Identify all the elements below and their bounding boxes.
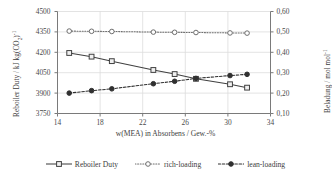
- series-line-0: [69, 53, 247, 88]
- data-point-marker: [245, 85, 250, 90]
- data-point-marker: [245, 31, 250, 36]
- legend-label: rich-loading: [164, 160, 201, 169]
- data-point-marker: [89, 54, 94, 59]
- data-point-marker: [245, 72, 250, 77]
- data-point-marker: [67, 29, 72, 34]
- legend-marker-icon: [218, 159, 244, 169]
- data-point-marker: [194, 30, 199, 35]
- data-point-marker: [172, 72, 177, 77]
- data-point-marker: [89, 29, 94, 34]
- data-point-marker: [110, 29, 115, 34]
- data-point-marker: [194, 76, 199, 81]
- data-point-marker: [228, 73, 233, 78]
- legend-label: lean-loading: [247, 160, 285, 169]
- data-point-marker: [151, 68, 156, 73]
- legend-item-rich-loading[interactable]: rich-loading: [135, 159, 201, 169]
- data-point-marker: [151, 81, 156, 86]
- data-point-marker: [89, 88, 94, 93]
- legend-marker-icon: [46, 159, 72, 169]
- data-point-marker: [110, 87, 115, 92]
- legend-label: Reboiler Duty: [75, 160, 118, 169]
- data-point-marker: [151, 30, 156, 35]
- legend-marker-icon: [135, 159, 161, 169]
- data-point-marker: [228, 31, 233, 36]
- data-point-marker: [228, 82, 233, 87]
- data-point-marker: [109, 59, 114, 64]
- series-line-2: [69, 74, 247, 93]
- data-point-marker: [172, 30, 177, 35]
- data-point-marker: [172, 79, 177, 84]
- legend-item-reboiler-duty[interactable]: Reboiler Duty: [46, 159, 118, 169]
- data-point-marker: [67, 51, 72, 56]
- legend-item-lean-loading[interactable]: lean-loading: [218, 159, 285, 169]
- data-point-marker: [67, 91, 72, 96]
- chart-legend: Reboiler Dutyrich-loadinglean-loading: [0, 155, 331, 173]
